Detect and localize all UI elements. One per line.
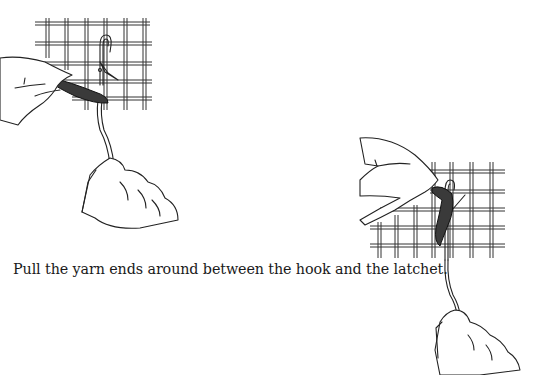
latch-hook-illustration-step-a: [0, 0, 200, 230]
instruction-caption: Pull the yarn ends around between the ho…: [13, 261, 448, 277]
canvas-grid-with-hook-drawing: [0, 0, 200, 230]
latch-hook-illustration-step-b: [340, 100, 533, 375]
yarn-wrapped-hook-drawing: [340, 100, 533, 375]
